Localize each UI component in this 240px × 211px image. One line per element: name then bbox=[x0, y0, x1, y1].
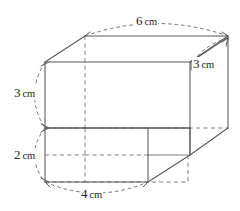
dimension-label-upper-height: 3 cm bbox=[13, 86, 36, 100]
edge-upper-top-left-diagonal bbox=[45, 36, 85, 62]
dimension-value-lower-height: 2 bbox=[14, 147, 21, 162]
dim-tick-bottom-right bbox=[143, 182, 148, 187]
dim-arc-upper-height bbox=[35, 62, 46, 128]
dimension-value-bottom-width: 4 bbox=[81, 186, 88, 201]
dimension-unit-top-width: cm bbox=[143, 16, 157, 27]
dimension-label-lower-height: 2 cm bbox=[13, 148, 36, 162]
dimension-unit-lower-height: cm bbox=[21, 150, 35, 161]
dim-tick-top-right bbox=[222, 32, 228, 36]
geometry-figure: 6 cm 3 cm 3 cm 2 cm 4 cm bbox=[0, 0, 240, 211]
dimension-unit-bottom-width: cm bbox=[88, 189, 102, 200]
dimension-value-top-width: 6 bbox=[136, 13, 143, 28]
edge-lower-right-bottom-diagonal bbox=[148, 155, 190, 182]
dimension-value-right-depth: 3 bbox=[193, 56, 200, 71]
dimension-arcs-group bbox=[35, 24, 229, 194]
dim-arc-lower-height bbox=[35, 128, 46, 182]
dimension-unit-right-depth: cm bbox=[200, 59, 214, 70]
solid-drawing bbox=[0, 0, 240, 211]
dimension-label-bottom-width: 4 cm bbox=[80, 187, 103, 201]
dimension-label-right-depth: 3 cm bbox=[192, 57, 215, 71]
dimension-label-top-width: 6 cm bbox=[135, 14, 158, 28]
dimension-value-upper-height: 3 bbox=[14, 85, 21, 100]
dimension-unit-upper-height: cm bbox=[21, 88, 35, 99]
edge-upper-right-bottom-diagonal bbox=[190, 128, 228, 155]
